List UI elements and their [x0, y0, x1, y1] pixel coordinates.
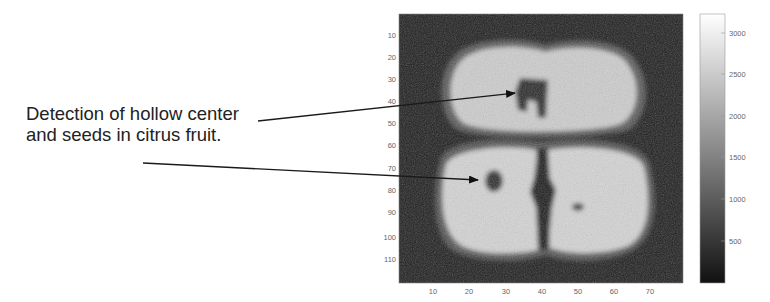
y-tick: 50 — [388, 119, 396, 128]
figure-canvas: 10 20 30 40 50 60 70 80 90 100 110 10 20… — [0, 0, 770, 302]
colorbar-tick: 1000 — [729, 195, 746, 204]
y-tick: 60 — [388, 141, 396, 150]
colorbar-tick: 500 — [729, 237, 742, 246]
y-tick: 40 — [388, 97, 396, 106]
x-axis: 10 20 30 40 50 60 70 — [429, 287, 654, 296]
colorbar: 3000 2500 2000 1500 1000 500 — [700, 14, 746, 283]
x-tick: 30 — [502, 287, 510, 296]
y-tick: 100 — [383, 233, 396, 242]
y-axis: 10 20 30 40 50 60 70 80 90 100 110 — [383, 31, 396, 264]
mri-image — [399, 14, 683, 283]
x-tick: 60 — [610, 287, 618, 296]
colorbar-tick: 2500 — [729, 70, 746, 79]
colorbar-tick: 2000 — [729, 112, 746, 121]
x-tick: 20 — [465, 287, 473, 296]
x-tick: 40 — [538, 287, 546, 296]
y-tick: 10 — [388, 31, 396, 40]
y-tick: 30 — [388, 75, 396, 84]
x-tick: 10 — [429, 287, 437, 296]
colorbar-tick: 3000 — [729, 29, 746, 38]
y-tick: 110 — [384, 255, 396, 264]
y-tick: 20 — [388, 53, 396, 62]
x-tick: 50 — [574, 287, 582, 296]
y-tick: 80 — [388, 186, 396, 195]
colorbar-tick: 1500 — [729, 153, 746, 162]
x-tick: 70 — [646, 287, 654, 296]
y-tick: 70 — [388, 164, 396, 173]
y-tick: 90 — [388, 208, 396, 217]
